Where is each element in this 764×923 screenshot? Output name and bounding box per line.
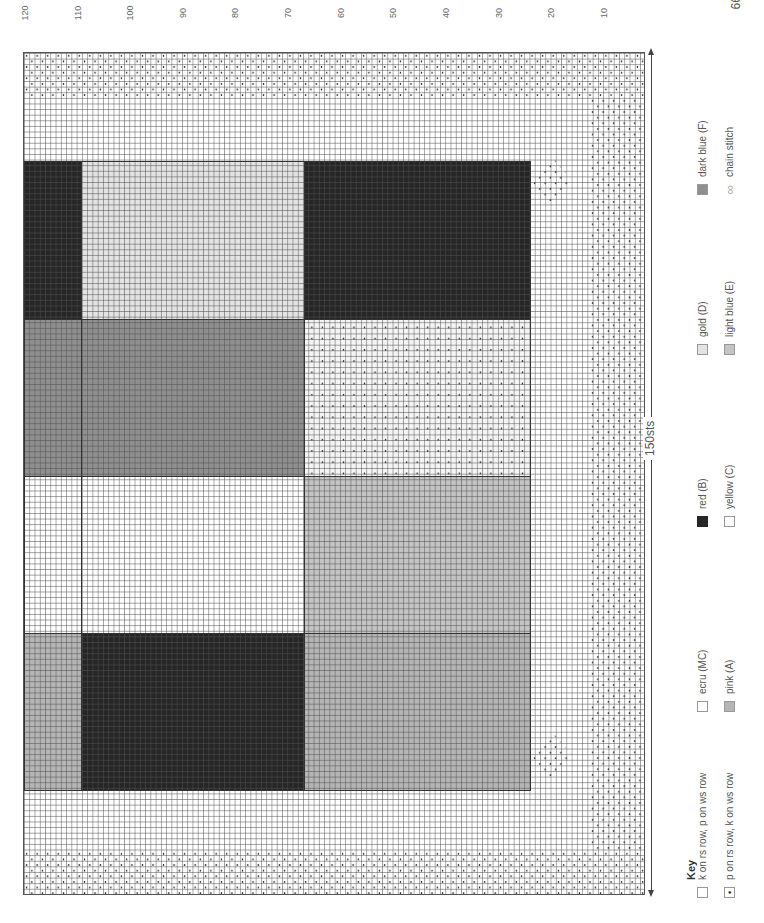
row-label-90: 90 [178,1,188,25]
yellow-swatch-icon [724,516,735,527]
ecru-swatch-icon [697,701,708,712]
row-label-80: 80 [230,1,240,25]
legend-label: gold (D) [697,301,708,337]
legend-item-knit: k on rs row, p on ws row [697,773,708,898]
arrow-up-icon [648,48,654,55]
row-label-40: 40 [441,1,451,25]
legend-label: light blue (E) [724,281,735,337]
stitch-count-label: 150sts [643,417,657,460]
legend-item-chain-stitch: ∞ chain stitch [724,127,735,195]
legend-item-pink: pink (A) [724,660,735,712]
legend-item-purl: • p on rs row, k on ws row [724,773,735,898]
row-label-20: 20 [546,1,556,25]
legend-label: p on rs row, k on ws row [724,773,735,880]
legend-label: pink (A) [724,660,735,694]
page-number: 99 [728,0,742,9]
legend-item-red: red (B) [697,478,708,527]
legend-label: k on rs row, p on ws row [697,773,708,880]
divider-h-2 [24,476,531,477]
row-label-60: 60 [336,1,346,25]
legend-item-ecru: ecru (MC) [697,650,708,712]
chain-stitch-icon: ∞ [724,184,735,195]
row-label-10: 10 [599,1,609,25]
row-label-120: 120 [20,1,30,25]
border-right-seed [590,98,645,851]
border-bottom-seed [24,851,645,895]
motif-diamond-top [532,158,574,206]
motif-diamond-bottom [532,733,574,781]
width-dimension-line [651,52,652,895]
border-top-seed [24,53,645,98]
divider-h-1 [24,319,531,320]
arrow-down-icon [648,890,654,897]
row-label-50: 50 [388,1,398,25]
legend-label: yellow (C) [724,465,735,509]
legend-item-gold: gold (D) [697,301,708,355]
dark-blue-swatch-icon [697,184,708,195]
row-label-100: 100 [125,1,135,25]
legend-label: ecru (MC) [697,650,708,694]
pink-swatch-icon [724,701,735,712]
blank-square-icon [697,887,708,898]
dot-square-icon: • [724,887,735,898]
legend-item-dark-blue: dark blue (F) [697,120,708,195]
chart-grid [23,52,645,895]
red-swatch-icon [697,516,708,527]
gold-swatch-icon [697,344,708,355]
legend-label: chain stitch [724,127,735,177]
legend-item-light-blue: light blue (E) [724,281,735,355]
divider-h-3 [24,633,531,634]
light-blue-swatch-icon [724,344,735,355]
legend-title: Key [685,860,697,880]
legend-label: red (B) [697,478,708,509]
row-label-30: 30 [494,1,504,25]
row-label-110: 110 [73,1,83,25]
row-label-70: 70 [283,1,293,25]
legend-label: dark blue (F) [697,120,708,177]
legend-item-yellow: yellow (C) [724,465,735,527]
